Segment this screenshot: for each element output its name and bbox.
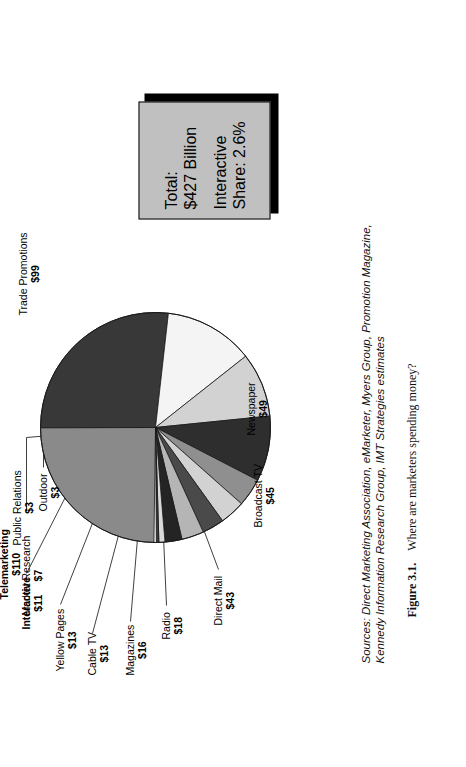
rotated-figure-stage: Total: $427 Billion Interactive Share: 2… (0, 0, 466, 767)
figure-number: Figure 3.1. (404, 562, 418, 617)
slice-label-yellow-pages: Yellow Pages $13 (53, 608, 78, 671)
slice-label-outdoor: Outdoor $3 (36, 473, 61, 511)
slice-label-radio: Radio $18 (159, 612, 184, 639)
pie-chart (7, 289, 307, 589)
callout-box: Total: $427 Billion Interactive Share: 2… (138, 101, 270, 219)
slice-label-cable-tv: Cable TV $13 (85, 631, 110, 675)
slice-label-magazines: Magazines $16 (123, 624, 148, 675)
slice-label-interactive: Interactive $11 (19, 576, 44, 629)
slice-label-telemarketing: Telemarketing $110 (0, 529, 22, 599)
figure-page: Total: $427 Billion Interactive Share: 2… (0, 0, 466, 767)
slice-label-broadcast-tv: Broadcast TV $45 (251, 464, 276, 527)
pie-slice-trade-promotions (40, 312, 168, 427)
figure-sources: Sources: Direct Marketing Association, e… (358, 193, 386, 663)
slice-label-direct-mail: Direct Mail $43 (211, 575, 236, 625)
callout-total-label: Total: (161, 111, 180, 209)
slice-label-newspaper: Newspaper $49 (244, 382, 269, 435)
callout-interactive-share: Share: 2.6% (229, 111, 248, 209)
figure-caption: Figure 3.1.Where are marketers spending … (404, 217, 418, 617)
figure-caption-text: Where are marketers spending money? (404, 363, 418, 550)
callout-interactive-label: Interactive (210, 111, 229, 209)
pie-chart-svg (7, 289, 307, 589)
slice-label-trade-promotions: Trade Promotions $99 (16, 232, 41, 315)
summary-callout: Total: $427 Billion Interactive Share: 2… (138, 93, 278, 219)
callout-total-value: $427 Billion (180, 111, 199, 209)
callout-spacer (199, 111, 210, 209)
